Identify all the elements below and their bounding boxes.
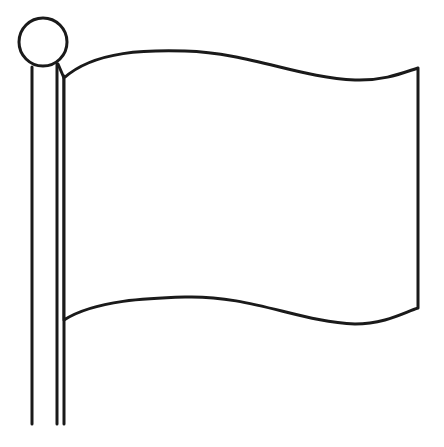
flagpole (32, 64, 64, 424)
flag-cloth (64, 51, 418, 324)
pole-hoist-connector (58, 64, 64, 78)
pole-finial-ball (19, 18, 67, 66)
flag-illustration (0, 0, 444, 447)
